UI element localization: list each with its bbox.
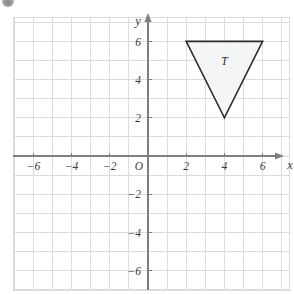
origin-label: O xyxy=(135,160,144,172)
coordinate-plane-figure: T −6−4−2246642−2−4−6Oxy xyxy=(0,0,294,294)
y-tick-label: −6 xyxy=(127,265,141,277)
y-tick-label: −2 xyxy=(127,188,141,200)
y-tick-label: −4 xyxy=(127,227,141,239)
x-tick-label: 4 xyxy=(222,160,228,172)
x-tick-label: −6 xyxy=(27,160,41,172)
coordinate-plane-svg: T −6−4−2246642−2−4−6Oxy xyxy=(0,0,294,294)
y-axis-label: y xyxy=(133,14,141,28)
x-tick-label: 6 xyxy=(260,160,266,172)
x-axis-label: x xyxy=(286,158,293,172)
y-tick-label: 4 xyxy=(135,74,141,86)
x-tick-label: −4 xyxy=(65,160,79,172)
y-tick-label: 6 xyxy=(135,36,141,48)
y-tick-label: 2 xyxy=(135,112,141,124)
x-tick-label: 2 xyxy=(183,160,189,172)
x-tick-label: −2 xyxy=(103,160,117,172)
